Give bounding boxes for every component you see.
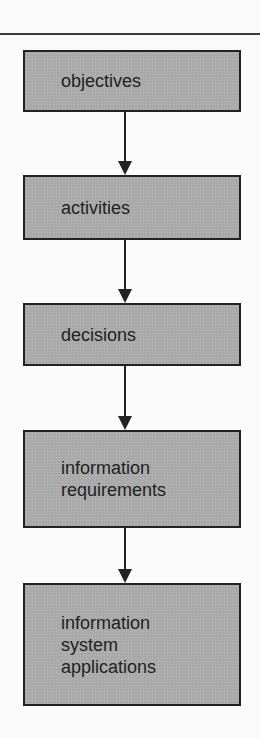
node-information-system-applications: information system applications — [23, 583, 241, 706]
arrow-shaft — [124, 366, 126, 422]
node-label-line-1: information — [61, 457, 239, 479]
top-rule-divider — [0, 33, 260, 35]
arrow-decisions-to-information-requirements — [123, 366, 127, 430]
arrow-activities-to-decisions — [123, 240, 127, 303]
node-label-line-2: requirements — [61, 479, 239, 501]
node-label: activities — [61, 197, 239, 219]
node-objectives: objectives — [23, 50, 241, 112]
arrow-down-icon — [118, 161, 132, 175]
arrow-objectives-to-activities — [123, 112, 127, 175]
node-label-line-2: system — [61, 634, 239, 656]
arrow-down-icon — [118, 289, 132, 303]
node-information-requirements: information requirements — [23, 430, 241, 528]
arrow-shaft — [124, 112, 126, 167]
node-label: decisions — [61, 324, 239, 346]
arrow-shaft — [124, 240, 126, 295]
node-activities: activities — [23, 175, 241, 240]
node-label-line-3: applications — [61, 656, 239, 678]
arrow-shaft — [124, 528, 126, 575]
arrow-down-icon — [118, 416, 132, 430]
node-label-line-1: information — [61, 612, 239, 634]
node-label: objectives — [61, 70, 239, 92]
arrow-down-icon — [118, 569, 132, 583]
node-decisions: decisions — [23, 303, 241, 366]
arrow-information-requirements-to-applications — [123, 528, 127, 583]
